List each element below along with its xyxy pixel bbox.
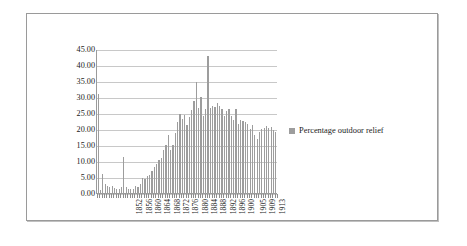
x-axis-tick xyxy=(249,194,250,198)
legend-swatch-icon xyxy=(289,128,295,134)
bar xyxy=(217,103,218,194)
x-axis-tick xyxy=(261,194,262,198)
bar xyxy=(191,110,192,194)
x-axis-tick xyxy=(188,194,189,198)
x-axis-tick-label: 1856 xyxy=(146,199,154,214)
bar xyxy=(107,186,108,194)
x-axis-tick-label: 1913 xyxy=(279,199,287,214)
x-axis-tick xyxy=(116,194,117,198)
x-axis-tick xyxy=(148,194,149,198)
chart-canvas: 45.0040.0035.0030.0025.0020.0015.0010.00… xyxy=(27,14,437,220)
x-axis-tick-label: 1909 xyxy=(269,199,277,214)
x-axis-tick xyxy=(141,194,142,198)
x-axis-tick-label: 1864 xyxy=(164,199,172,214)
bar xyxy=(126,187,127,194)
chart-legend: Percentage outdoor relief xyxy=(289,126,384,135)
y-axis-tick-label: 5.00 xyxy=(81,174,95,182)
x-axis-tick xyxy=(113,194,114,198)
bar xyxy=(261,129,262,194)
y-axis-tick-label: 35.00 xyxy=(77,78,95,86)
bar-series xyxy=(97,50,277,194)
bar xyxy=(142,178,143,194)
x-axis-tick xyxy=(158,194,159,198)
x-axis-tick xyxy=(214,194,215,198)
bar xyxy=(158,160,159,194)
x-axis-tick-label: 1852 xyxy=(136,199,144,214)
x-axis-tick xyxy=(111,194,112,198)
bar xyxy=(184,115,185,194)
x-axis-tick xyxy=(165,194,166,198)
bar xyxy=(168,135,169,194)
bar xyxy=(224,116,225,194)
x-axis-tick xyxy=(247,194,248,198)
x-axis-tick xyxy=(146,194,147,198)
bar xyxy=(172,145,173,194)
bar xyxy=(247,124,248,194)
bar xyxy=(228,109,229,194)
bar xyxy=(205,109,206,194)
x-axis-tick xyxy=(179,194,180,198)
x-axis-tick xyxy=(219,194,220,198)
bar xyxy=(245,122,246,194)
x-axis-tick-label: 1872 xyxy=(183,199,191,214)
x-axis-tick xyxy=(134,194,135,198)
x-axis-tick xyxy=(275,194,276,198)
x-axis-tick xyxy=(174,194,175,198)
x-axis-tick xyxy=(160,194,161,198)
x-axis-tick xyxy=(198,194,199,198)
x-axis-tick xyxy=(106,194,107,198)
x-axis-tick-label: 1884 xyxy=(211,199,219,214)
x-axis-tick xyxy=(127,194,128,198)
x-axis-tick-label: 1905 xyxy=(260,199,268,214)
x-axis-tick xyxy=(226,194,227,198)
x-axis-tick-label: 1860 xyxy=(155,199,163,214)
x-axis-tick xyxy=(251,194,252,198)
bar xyxy=(242,121,243,194)
bar xyxy=(240,120,241,194)
bar xyxy=(207,56,208,194)
x-axis-tick xyxy=(153,194,154,198)
bar xyxy=(203,116,204,194)
bar xyxy=(252,125,253,194)
bar xyxy=(193,101,194,194)
x-axis-tick xyxy=(123,194,124,198)
bar xyxy=(175,133,176,194)
bar xyxy=(151,171,152,194)
x-axis-tick xyxy=(202,194,203,198)
x-axis-tick xyxy=(277,194,278,198)
y-axis-tick-label: 10.00 xyxy=(77,158,95,166)
bar xyxy=(196,82,197,194)
x-axis-tick xyxy=(221,194,222,198)
x-axis-tick xyxy=(263,194,264,198)
x-axis-labels: 1852185618601864186818721876188018841888… xyxy=(97,199,277,241)
bar xyxy=(163,150,164,194)
x-axis-tick xyxy=(228,194,229,198)
bar xyxy=(214,107,215,194)
bar xyxy=(200,97,201,194)
x-axis-tick xyxy=(270,194,271,198)
x-axis-tick xyxy=(104,194,105,198)
bar xyxy=(182,119,183,194)
bar xyxy=(268,128,269,194)
x-axis-tick xyxy=(139,194,140,198)
bar xyxy=(137,187,138,194)
x-axis-tick xyxy=(216,194,217,198)
x-axis-tick xyxy=(155,194,156,198)
x-axis-tick xyxy=(244,194,245,198)
x-axis-tick xyxy=(205,194,206,198)
chart-frame: 45.0040.0035.0030.0025.0020.0015.0010.00… xyxy=(26,13,438,221)
y-axis-tick-label: 30.00 xyxy=(77,94,95,102)
bar xyxy=(105,184,106,194)
x-axis-tick xyxy=(223,194,224,198)
bar xyxy=(273,130,274,194)
x-axis-tick xyxy=(176,194,177,198)
x-axis-tick-label: 1868 xyxy=(174,199,182,214)
x-axis-tick-label: 1888 xyxy=(220,199,228,214)
x-axis-tick xyxy=(130,194,131,198)
x-axis-tick xyxy=(265,194,266,198)
x-axis-tick xyxy=(230,194,231,198)
bar xyxy=(231,116,232,194)
bar xyxy=(135,186,136,194)
bar xyxy=(121,187,122,194)
bar xyxy=(219,106,220,194)
